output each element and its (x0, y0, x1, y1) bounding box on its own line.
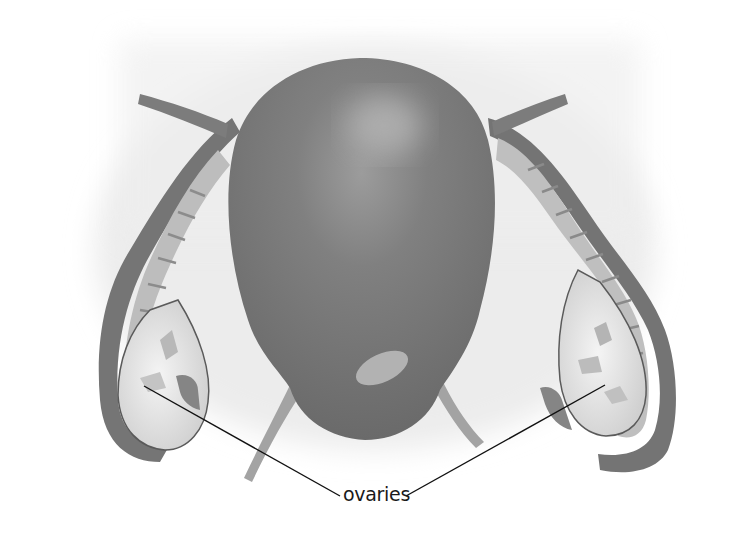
anatomy-diagram: ovaries (0, 0, 748, 553)
ovaries-label: ovaries (343, 485, 410, 504)
reproductive-organs-illustration (0, 0, 748, 553)
